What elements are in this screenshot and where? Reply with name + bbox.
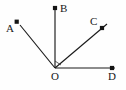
endpoint-dot-c — [100, 26, 104, 30]
point-label-d: D — [108, 71, 116, 82]
ray-diagram-figure: A B C D O — [0, 0, 126, 90]
ray-oa — [20, 25, 55, 68]
point-label-b: B — [60, 3, 67, 14]
point-label-c: C — [90, 16, 97, 27]
point-label-o: O — [51, 71, 59, 82]
endpoint-dot-b — [53, 6, 57, 10]
point-label-a: A — [6, 23, 14, 34]
ray-oc — [55, 24, 107, 68]
endpoint-dot-a — [15, 20, 19, 24]
